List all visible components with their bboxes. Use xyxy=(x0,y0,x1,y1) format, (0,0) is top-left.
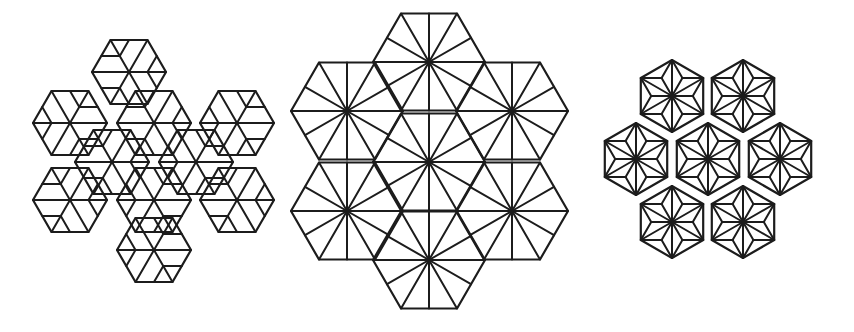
edge-line xyxy=(112,130,131,162)
edge-line xyxy=(136,218,155,250)
edge-line xyxy=(89,200,98,216)
edge-line xyxy=(145,139,154,155)
edge-line xyxy=(145,91,154,107)
edge-line xyxy=(148,72,157,88)
edge-line xyxy=(136,250,155,282)
edge-line xyxy=(178,162,197,194)
edge-line xyxy=(256,200,265,216)
edge-line xyxy=(219,91,238,123)
edge-line xyxy=(70,168,89,200)
edge-line xyxy=(120,88,129,104)
edge-line xyxy=(70,200,89,232)
edge-line xyxy=(173,107,182,123)
edge-line xyxy=(126,234,135,250)
edge-line xyxy=(148,56,157,72)
edge-line xyxy=(237,200,256,232)
edge-line xyxy=(154,91,173,123)
edge-line xyxy=(61,216,70,232)
edge-line xyxy=(237,91,246,107)
edge-line xyxy=(237,168,256,200)
tiling-diagram xyxy=(0,0,854,332)
edge-line xyxy=(61,168,70,184)
edge-line xyxy=(126,250,135,266)
left-tiling-panel xyxy=(33,40,274,282)
edge-line xyxy=(136,200,155,232)
edge-line xyxy=(103,130,112,146)
edge-line xyxy=(136,168,155,200)
edge-line xyxy=(196,130,205,146)
edge-line xyxy=(120,40,129,56)
edge-line xyxy=(126,200,135,216)
figure-canvas xyxy=(0,0,854,332)
right-tiling-panel xyxy=(605,60,811,258)
edge-line xyxy=(52,123,71,155)
edge-line xyxy=(129,40,148,72)
edge-line xyxy=(256,184,265,200)
edge-line xyxy=(154,266,163,282)
edge-line xyxy=(237,139,246,155)
edge-line xyxy=(103,178,112,194)
edge-line xyxy=(42,107,51,123)
edge-line xyxy=(70,91,79,107)
edge-line xyxy=(154,168,163,184)
edge-line xyxy=(219,123,238,155)
edge-line xyxy=(52,91,71,123)
edge-line xyxy=(228,216,237,232)
edge-line xyxy=(178,130,197,162)
edge-line xyxy=(42,123,51,139)
edge-line xyxy=(209,107,218,123)
edge-line xyxy=(70,139,79,155)
center-tiling-panel xyxy=(291,14,568,309)
edge-line xyxy=(112,162,131,194)
